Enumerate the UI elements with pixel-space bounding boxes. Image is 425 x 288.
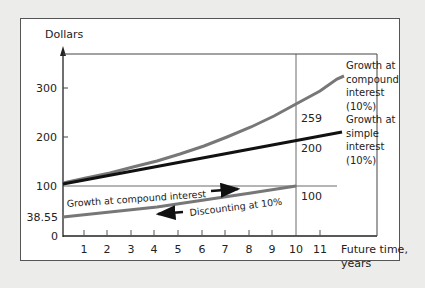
svg-text:10: 10: [289, 243, 303, 256]
value-259: 259: [301, 112, 322, 125]
svg-text:7: 7: [222, 243, 229, 256]
svg-text:interest: interest: [346, 141, 384, 152]
svg-text:compound: compound: [346, 74, 399, 85]
growth-arrow-text: Growth at compound interest: [66, 188, 206, 209]
svg-text:4: 4: [151, 243, 158, 256]
chart-svg: Dollars 300 200 100 38.55 0 1 2 3 4 5 6 …: [0, 0, 425, 288]
y-tick-100: 100: [36, 180, 57, 193]
svg-text:Growth at: Growth at: [346, 60, 396, 71]
svg-text:(10%): (10%): [346, 155, 376, 166]
svg-text:9: 9: [269, 243, 276, 256]
svg-text:2: 2: [104, 243, 111, 256]
y-tick-300: 300: [36, 82, 57, 95]
compound-label: Growth at compound interest (10%): [346, 60, 399, 112]
x-ticks: [84, 230, 320, 236]
y-axis-label: Dollars: [45, 28, 84, 41]
svg-text:5: 5: [175, 243, 182, 256]
svg-text:3: 3: [128, 243, 135, 256]
y-tick-200: 200: [36, 131, 57, 144]
svg-text:simple: simple: [346, 128, 379, 139]
x-axis-label-line1: Future time,: [341, 243, 408, 256]
svg-text:interest: interest: [346, 87, 384, 98]
growth-arrow-icon: [211, 189, 238, 191]
value-100: 100: [301, 190, 322, 203]
svg-text:6: 6: [199, 243, 206, 256]
y-tick-0: 0: [51, 230, 58, 243]
y-tick-38-55: 38.55: [27, 211, 59, 224]
x-tick-labels: 1 2 3 4 5 6 7 8 9 10 11: [81, 243, 328, 256]
svg-text:8: 8: [246, 243, 253, 256]
simple-label: Growth at simple interest (10%): [346, 114, 396, 166]
discount-arrow-icon: [158, 212, 183, 214]
compound-growth-curve: [63, 76, 344, 183]
value-200: 200: [301, 142, 322, 155]
y-ticks: [63, 88, 68, 137]
svg-text:11: 11: [313, 243, 327, 256]
simple-growth-line: [63, 132, 342, 184]
svg-text:1: 1: [81, 243, 88, 256]
svg-text:(10%): (10%): [346, 101, 376, 112]
svg-text:Growth at: Growth at: [346, 114, 396, 125]
x-axis-label-line2: years: [341, 257, 372, 270]
